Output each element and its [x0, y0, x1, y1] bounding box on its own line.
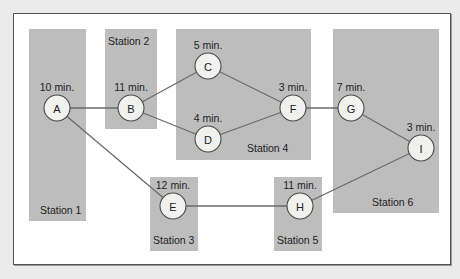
task-node-c: 5 min.C — [194, 39, 223, 79]
precedence-diagram: Station 1Station 2Station 3Station 4Stat… — [0, 0, 460, 279]
station-label: Station 2 — [108, 35, 150, 47]
station-label: Station 3 — [153, 234, 195, 246]
task-time-label: 3 min. — [279, 81, 308, 93]
task-label: I — [419, 143, 422, 155]
task-label: F — [290, 103, 297, 115]
task-node-i: 3 min.I — [407, 121, 436, 161]
task-label: C — [204, 61, 212, 73]
station-label: Station 5 — [277, 234, 319, 246]
task-label: D — [204, 134, 212, 146]
station-label: Station 4 — [247, 142, 289, 154]
task-label: G — [347, 103, 356, 115]
task-time-label: 7 min. — [337, 81, 366, 93]
task-node-d: 4 min.D — [194, 112, 223, 152]
station-label: Station 1 — [40, 204, 82, 216]
stations-layer: Station 1Station 2Station 3Station 4Stat… — [29, 29, 439, 251]
task-time-label: 11 min. — [283, 179, 317, 191]
task-label: A — [53, 103, 61, 115]
task-time-label: 5 min. — [194, 39, 223, 51]
diagram-canvas: Station 1Station 2Station 3Station 4Stat… — [0, 0, 460, 279]
task-time-label: 10 min. — [40, 81, 74, 93]
station-label: Station 6 — [372, 196, 414, 208]
task-time-label: 4 min. — [194, 112, 223, 124]
task-time-label: 3 min. — [407, 121, 436, 133]
task-label: H — [296, 201, 304, 213]
task-label: E — [169, 201, 176, 213]
task-node-f: 3 min.F — [279, 81, 308, 121]
task-label: B — [127, 103, 134, 115]
task-time-label: 12 min. — [156, 179, 190, 191]
task-node-g: 7 min.G — [337, 81, 366, 121]
task-time-label: 11 min. — [114, 81, 148, 93]
